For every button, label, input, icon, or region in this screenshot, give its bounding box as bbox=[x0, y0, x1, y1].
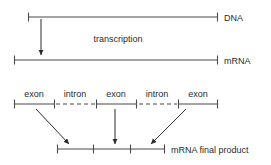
diagram-canvas: DNA transcription mRNA exon intron exon … bbox=[0, 0, 271, 165]
exon-2-label: exon bbox=[106, 89, 126, 99]
final-product-row: mRNA final product bbox=[57, 145, 249, 155]
exon-1-label: exon bbox=[24, 89, 44, 99]
exon-3-label: exon bbox=[188, 89, 208, 99]
intron-1-label: intron bbox=[64, 89, 87, 99]
mrna-label: mRNA bbox=[224, 56, 251, 66]
splicing-arrows bbox=[36, 109, 186, 144]
mrna-row: mRNA bbox=[14, 56, 251, 66]
dna-row: DNA bbox=[28, 13, 243, 23]
transcription-group: transcription bbox=[41, 19, 143, 55]
pre-mrna-row: exon intron exon intron exon bbox=[14, 89, 218, 109]
intron-2-label: intron bbox=[146, 89, 169, 99]
dna-label: DNA bbox=[224, 13, 243, 23]
exon1-splice-arrow bbox=[36, 109, 69, 144]
final-product-label: mRNA final product bbox=[171, 145, 249, 155]
transcription-label: transcription bbox=[93, 34, 142, 44]
exon3-splice-arrow bbox=[151, 109, 186, 144]
transcription-splicing-diagram: DNA transcription mRNA exon intron exon … bbox=[0, 0, 271, 165]
